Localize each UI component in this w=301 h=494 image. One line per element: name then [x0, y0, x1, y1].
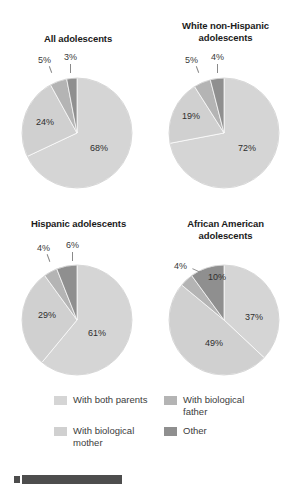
legend-label-both-parents: With both parents: [73, 394, 147, 406]
pie-chart-figure: All adolescents 68% 24% 5% 3% White non-…: [0, 0, 301, 494]
leader-line-hispanic-other: [72, 252, 73, 261]
value-label-all-biological-mother: 24%: [36, 117, 54, 127]
legend-swatch-other-icon: [164, 427, 177, 436]
value-label-hispanic-other: 6%: [66, 240, 79, 250]
leader-line-all-father: [49, 66, 52, 73]
value-label-hispanic-biological-mother: 29%: [38, 310, 56, 320]
value-label-white-biological-mother: 19%: [182, 111, 200, 121]
value-label-all-other: 3%: [64, 52, 77, 62]
bottom-marker-square: [14, 476, 20, 483]
value-label-white-both-parents: 72%: [238, 143, 256, 153]
pie-svg-white: [167, 76, 281, 190]
bottom-rule-bar: [22, 475, 122, 484]
legend-item-with-both-parents: With both parents: [54, 394, 147, 406]
value-label-african-biological-mother: 49%: [205, 338, 223, 348]
legend-swatch-father-icon: [164, 396, 177, 405]
pie-chart-white-non-hispanic: [167, 76, 281, 190]
chart-legend: With both parents With biological mother…: [54, 394, 286, 456]
pie-svg-all: [20, 76, 134, 190]
value-label-all-both-parents: 68%: [90, 143, 108, 153]
leader-line-all-other: [70, 64, 71, 73]
leader-line-hispanic-father: [47, 254, 51, 262]
value-label-hispanic-both-parents: 61%: [88, 328, 106, 338]
legend-label-biological-father: With biological father: [183, 394, 261, 417]
value-label-african-biological-father: 4%: [174, 261, 187, 271]
panel-title-white-line2: adolescents: [153, 32, 298, 44]
panel-title-african-line2: adolescents: [153, 230, 298, 242]
legend-label-other: Other: [183, 425, 207, 437]
panel-title-hispanic: Hispanic adolescents: [6, 218, 151, 230]
value-label-african-both-parents: 37%: [245, 312, 263, 322]
pie-chart-hispanic: [20, 263, 134, 377]
legend-item-other: Other: [164, 425, 207, 437]
value-label-african-other: 10%: [208, 272, 226, 282]
legend-swatch-mother-icon: [54, 427, 67, 436]
legend-swatch-both-parents-icon: [54, 396, 67, 405]
pie-svg-hispanic: [20, 263, 134, 377]
panel-title-african-american: African American adolescents: [153, 218, 298, 242]
value-label-white-other: 4%: [211, 52, 224, 62]
leader-line-white-other: [217, 64, 218, 73]
value-label-hispanic-biological-father: 4%: [37, 243, 50, 253]
panel-title-african-line1: African American: [153, 218, 298, 230]
legend-item-with-biological-mother: With biological mother: [54, 425, 151, 448]
pie-chart-all-adolescents: [20, 76, 134, 190]
value-label-all-biological-father: 5%: [38, 55, 51, 65]
legend-item-with-biological-father: With biological father: [164, 394, 261, 417]
value-label-white-biological-father: 5%: [185, 55, 198, 65]
panel-title-white-line1: White non-Hispanic: [153, 20, 298, 32]
leader-line-white-father: [196, 66, 199, 73]
panel-title-all-adolescents: All adolescents: [8, 33, 148, 45]
panel-title-white-non-hispanic: White non-Hispanic adolescents: [153, 20, 298, 44]
legend-label-biological-mother: With biological mother: [73, 425, 151, 448]
